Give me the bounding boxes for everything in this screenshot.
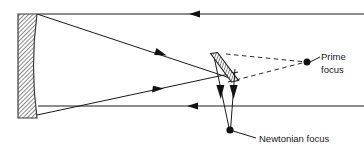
telescope-ray-diagram: Prime focus Newtonian focus	[0, 0, 364, 158]
reflected-ray-upper	[37, 14, 233, 79]
prime-focus-leader-line	[310, 57, 320, 62]
prime-focus-label-line2: focus	[321, 64, 344, 75]
diagram-canvas: Prime focus Newtonian focus	[0, 0, 364, 158]
dashed-ray-lower	[228, 62, 306, 82]
dashed-ray-upper	[226, 54, 306, 62]
reflected-rays	[37, 14, 238, 115]
incoming-ray-bottom-arrow	[187, 102, 198, 109]
newtonian-focus-label: Newtonian focus	[259, 133, 329, 144]
incoming-ray-top-arrow	[189, 10, 200, 17]
primary-mirror	[18, 14, 37, 118]
dashed-prime-focus-rays	[226, 54, 306, 82]
newtonian-focus-leader-line	[233, 131, 256, 138]
prime-focus-point	[304, 59, 311, 66]
reflected-ray-lower	[37, 72, 238, 115]
reflected-ray-lower-arrow	[152, 86, 164, 93]
newtonian-ray-left-arrow	[216, 85, 224, 99]
newtonian-focus-point	[226, 126, 233, 133]
prime-focus-label-line1: Prime	[321, 51, 346, 62]
newtonian-ray-right-arrow	[230, 85, 238, 99]
